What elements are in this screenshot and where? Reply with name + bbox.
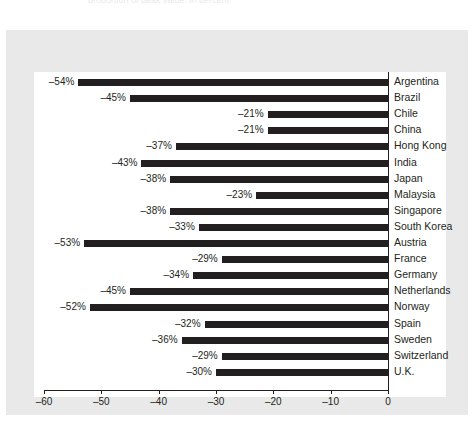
bar-chart-figure: proportion of peak value, in percent –54…: [0, 0, 474, 427]
category-label: Japan: [394, 172, 423, 185]
category-label: Switzerland: [394, 349, 448, 362]
x-axis-tick: [331, 390, 332, 394]
x-axis-tick-label: –30: [196, 395, 236, 408]
chart-panel: –54%Argentina–45%Brazil–21%Chile–21%Chin…: [6, 30, 468, 415]
bar-row: –29%Switzerland: [34, 348, 446, 364]
category-label: Spain: [394, 317, 421, 330]
bar-row: –36%Sweden: [34, 332, 446, 348]
bar-row: –38%Singapore: [34, 203, 446, 219]
category-label: Malaysia: [394, 188, 435, 201]
bar: [268, 111, 388, 118]
x-axis-tick: [273, 390, 274, 394]
bar-value-label: –38%: [126, 172, 166, 185]
bar-rows: –54%Argentina–45%Brazil–21%Chile–21%Chin…: [34, 72, 446, 390]
category-label: U.K.: [394, 365, 414, 378]
caption-sliver: proportion of peak value, in percent: [88, 0, 318, 3]
bar: [170, 208, 388, 215]
bar-row: –52%Norway: [34, 299, 446, 315]
bar-row: –38%Japan: [34, 171, 446, 187]
bar: [216, 369, 388, 376]
bar-value-label: –38%: [126, 204, 166, 217]
bar-row: –45%Netherlands: [34, 283, 446, 299]
bar-row: –33%South Korea: [34, 219, 446, 235]
bar-row: –37%Hong Kong: [34, 138, 446, 154]
bar: [182, 337, 388, 344]
bar: [268, 127, 388, 134]
bar-value-label: –32%: [161, 317, 201, 330]
x-axis-tick: [216, 390, 217, 394]
x-axis-tick-label: 0: [368, 395, 408, 408]
bar: [222, 256, 388, 263]
bar-value-label: –21%: [224, 123, 264, 136]
x-axis-tick-label: –20: [253, 395, 293, 408]
bar: [170, 176, 388, 183]
x-axis-tick: [159, 390, 160, 394]
bar-value-label: –45%: [86, 91, 126, 104]
bar-value-label: –30%: [172, 365, 212, 378]
bar-value-label: –29%: [178, 349, 218, 362]
bar-row: –30%U.K.: [34, 364, 446, 380]
bar-value-label: –21%: [224, 107, 264, 120]
bar-row: –45%Brazil: [34, 90, 446, 106]
category-label: Netherlands: [394, 284, 451, 297]
bar: [193, 272, 388, 279]
bar-row: –21%China: [34, 122, 446, 138]
bar: [176, 143, 388, 150]
bar-row: –43%India: [34, 155, 446, 171]
bar-value-label: –36%: [138, 333, 178, 346]
bar: [205, 321, 388, 328]
category-label: South Korea: [394, 220, 452, 233]
category-label: India: [394, 156, 417, 169]
category-label: Norway: [394, 300, 430, 313]
x-axis-tick: [388, 390, 389, 394]
bar: [256, 192, 388, 199]
bar: [130, 95, 388, 102]
category-label: Germany: [394, 268, 437, 281]
bar-row: –23%Malaysia: [34, 187, 446, 203]
category-label: China: [394, 123, 421, 136]
bar-value-label: –34%: [149, 268, 189, 281]
bar-value-label: –54%: [34, 75, 74, 88]
x-axis-tick-label: –50: [81, 395, 121, 408]
category-label: Singapore: [394, 204, 442, 217]
bar-value-label: –45%: [86, 284, 126, 297]
bar: [78, 79, 388, 86]
x-axis-tick: [101, 390, 102, 394]
bar-value-label: –23%: [212, 188, 252, 201]
category-label: Argentina: [394, 75, 439, 88]
x-axis-tick: [44, 390, 45, 394]
category-label: Chile: [394, 107, 418, 120]
bar-row: –34%Germany: [34, 267, 446, 283]
bar-value-label: –29%: [178, 252, 218, 265]
bar-row: –54%Argentina: [34, 74, 446, 90]
category-label: Sweden: [394, 333, 432, 346]
bar: [84, 240, 388, 247]
category-label: Austria: [394, 236, 427, 249]
category-label: Brazil: [394, 91, 420, 104]
bar: [141, 160, 388, 167]
bar-value-label: –52%: [46, 300, 86, 313]
x-axis-tick-label: –60: [24, 395, 64, 408]
bar-value-label: –43%: [97, 156, 137, 169]
x-axis-tick-label: –40: [139, 395, 179, 408]
bar-row: –29%France: [34, 251, 446, 267]
bar: [199, 224, 388, 231]
bar-row: –21%Chile: [34, 106, 446, 122]
bar-value-label: –53%: [40, 236, 80, 249]
bar: [130, 288, 388, 295]
bar-row: –32%Spain: [34, 316, 446, 332]
plot-area: –54%Argentina–45%Brazil–21%Chile–21%Chin…: [34, 72, 446, 397]
bar-row: –53%Austria: [34, 235, 446, 251]
bar: [90, 304, 388, 311]
bar-value-label: –33%: [155, 220, 195, 233]
category-label: France: [394, 252, 427, 265]
bar-value-label: –37%: [132, 139, 172, 152]
bar: [222, 353, 388, 360]
category-label: Hong Kong: [394, 139, 447, 152]
x-axis-tick-label: –10: [311, 395, 351, 408]
